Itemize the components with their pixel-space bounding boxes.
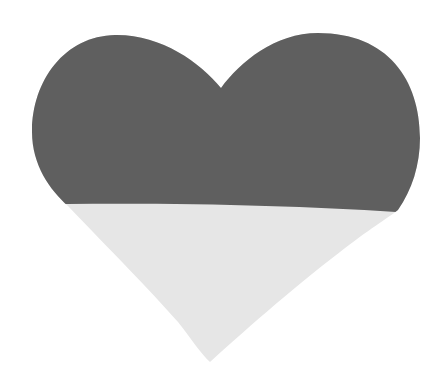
heart-upper-region xyxy=(0,0,447,212)
heart-icon xyxy=(0,0,447,384)
heart-canvas xyxy=(0,0,447,384)
